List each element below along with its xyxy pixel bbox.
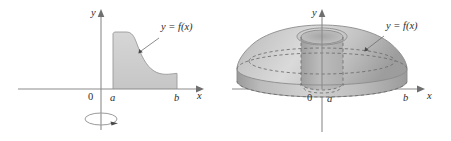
curve-label: y = f(x) [385,20,418,32]
x-axis-label: x [196,90,202,101]
y-axis-left [98,9,105,130]
x-axis-arrowhead [417,86,425,93]
figure-container: y x 0 a b y = f(x) [0,0,451,141]
origin-label: 0 [307,92,312,103]
tick-label-a: a [110,92,115,103]
tick-label-b: b [174,92,179,103]
leader-line [141,38,159,51]
y-axis-arrowhead [98,9,105,17]
curve-label: y = f(x) [160,21,193,33]
y-axis-label: y [311,7,317,18]
y-axis-arrowhead [319,9,326,17]
y-axis-label: y [90,7,96,18]
x-axis-label: x [426,90,432,101]
tick-label-a: a [327,93,332,104]
plane-region-panel: y x 0 a b y = f(x) [18,7,204,130]
mathematical-figure: y x 0 a b y = f(x) [0,0,451,141]
origin-label: 0 [88,91,93,102]
curve-callout-left: y = f(x) [138,21,193,54]
tick-label-b: b [403,92,408,103]
shaded-region [113,32,177,89]
solid-of-revolution-panel: y x 0 a b y = f(x) [232,7,432,132]
